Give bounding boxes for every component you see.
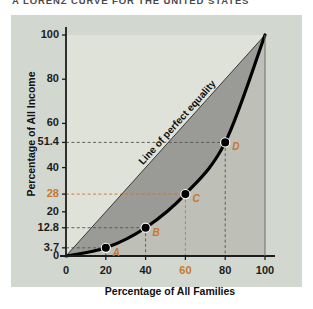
x-tick-label: 20 bbox=[86, 264, 126, 276]
y-tick-label: 80 bbox=[47, 72, 59, 84]
data-point-label-a: A bbox=[113, 247, 120, 258]
y-tick-label: 12.8 bbox=[38, 221, 59, 233]
x-axis-title: Percentage of All Families bbox=[60, 285, 280, 297]
y-axis-title: Percentage of All Income bbox=[25, 59, 37, 209]
data-point-label-d: D bbox=[232, 141, 239, 152]
x-tick-label: 100 bbox=[245, 264, 285, 276]
y-tick-label: 3.7 bbox=[44, 241, 59, 253]
lorenz-curve-svg bbox=[0, 0, 313, 309]
plot-canvas: 03.712.820284051.46080100020406080100ABC… bbox=[0, 0, 313, 309]
y-tick-label: 100 bbox=[41, 28, 59, 40]
x-tick-label: 60 bbox=[165, 264, 205, 276]
y-tick-label: 60 bbox=[47, 116, 59, 128]
x-tick-label: 0 bbox=[46, 264, 86, 276]
data-point-label-b: B bbox=[153, 227, 160, 238]
x-tick-label: 40 bbox=[126, 264, 166, 276]
y-tick-label: 20 bbox=[47, 205, 59, 217]
data-point-label-c: C bbox=[192, 193, 199, 204]
y-tick-label: 51.4 bbox=[38, 135, 59, 147]
y-tick-label: 28 bbox=[47, 187, 59, 199]
figure: A LORENZ CURVE FOR THE UNITED STATES 03.… bbox=[0, 0, 313, 309]
x-tick-label: 80 bbox=[205, 264, 245, 276]
y-tick-label: 40 bbox=[47, 161, 59, 173]
